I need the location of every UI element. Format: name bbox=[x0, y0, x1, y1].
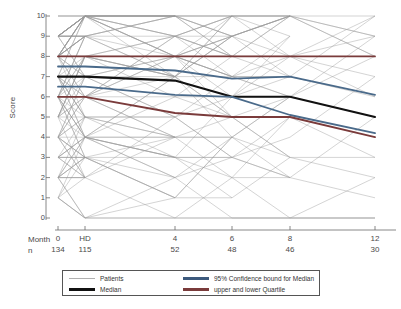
x-axis-n-8: 46 bbox=[286, 246, 295, 254]
y-tick-2: 2 bbox=[23, 174, 45, 182]
legend-item-median: Median bbox=[69, 285, 124, 294]
legend-swatch-median bbox=[69, 288, 95, 291]
y-tick-7: 7 bbox=[23, 73, 45, 81]
n-row-label: n bbox=[28, 246, 32, 255]
chart-root: 109876543210 Score Month n 0134HD1154526… bbox=[0, 0, 401, 309]
x-axis-n-0: 134 bbox=[51, 246, 64, 254]
x-axis-month-4: 4 bbox=[173, 235, 177, 243]
y-axis-ticks: 109876543210 bbox=[21, 0, 45, 232]
y-tick-6: 6 bbox=[23, 93, 45, 101]
legend-item-confidence: 95% Confidence bound for Median bbox=[183, 274, 314, 283]
chart-legend: Patients Median 95% Confidence bound for… bbox=[62, 270, 320, 296]
y-tick-3: 3 bbox=[23, 153, 45, 161]
legend-item-patients: Patients bbox=[69, 274, 124, 283]
legend-swatch-confidence bbox=[183, 277, 209, 280]
legend-column-left: Patients Median bbox=[69, 274, 124, 296]
patient-lines-group bbox=[58, 16, 375, 218]
x-axis-month-12: 12 bbox=[371, 235, 380, 243]
x-axis-n-HD: 115 bbox=[79, 246, 92, 254]
legend-swatch-patients bbox=[69, 278, 95, 279]
y-tick-10: 10 bbox=[23, 12, 45, 20]
x-axis-n-4: 52 bbox=[171, 246, 180, 254]
y-tick-4: 4 bbox=[23, 133, 45, 141]
month-row-label: Month bbox=[28, 235, 50, 244]
x-axis-month-HD: HD bbox=[79, 235, 91, 243]
y-tick-5: 5 bbox=[23, 113, 45, 121]
y-tick-1: 1 bbox=[23, 194, 45, 202]
legend-item-quartile: upper and lower Quartile bbox=[183, 285, 314, 294]
y-tick-9: 9 bbox=[23, 32, 45, 40]
x-axis-month-0: 0 bbox=[56, 235, 60, 243]
x-axis-n-6: 48 bbox=[228, 246, 237, 254]
x-axis-month-6: 6 bbox=[230, 235, 234, 243]
patient-trajectory-chart bbox=[0, 0, 401, 232]
x-axis-n-12: 30 bbox=[371, 246, 380, 254]
plot-area bbox=[0, 0, 401, 232]
legend-swatch-quartile bbox=[183, 288, 209, 291]
legend-label-median: Median bbox=[100, 285, 121, 294]
x-axis-month-8: 8 bbox=[288, 235, 292, 243]
legend-column-right: 95% Confidence bound for Median upper an… bbox=[183, 274, 314, 296]
legend-label-patients: Patients bbox=[100, 274, 124, 283]
y-axis-title: Score bbox=[8, 78, 17, 138]
x-axis-table: Month n 0134HD1154526488461230 bbox=[0, 234, 401, 264]
legend-label-quartile: upper and lower Quartile bbox=[214, 285, 285, 294]
y-tick-0: 0 bbox=[23, 214, 45, 222]
y-tick-8: 8 bbox=[23, 52, 45, 60]
legend-label-confidence: 95% Confidence bound for Median bbox=[214, 274, 314, 283]
